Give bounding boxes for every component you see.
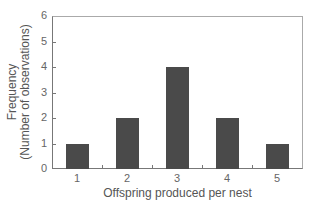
y-tick-label: 4 [35,60,47,72]
x-axis-label: Offspring produced per nest [52,186,303,200]
y-tick [52,42,56,43]
x-minor-tick [202,165,203,169]
x-tick-label: 1 [67,172,87,184]
bar-2 [116,118,139,169]
y-tick [52,144,56,145]
y-tick-label: 1 [35,137,47,149]
x-tick-label: 2 [117,172,137,184]
y-tick-label: 3 [35,86,47,98]
bar-4 [216,118,239,169]
x-tick-label: 3 [167,172,187,184]
y-axis-label: Frequency (Number of observations) [4,12,34,172]
x-tick-label: 5 [267,172,287,184]
y-tick-label: 2 [35,111,47,123]
y-tick [52,67,56,68]
bar-5 [266,144,289,170]
bar-1 [66,144,89,170]
y-tick [52,118,56,119]
y-tick-label: 0 [35,162,47,174]
x-tick-label: 4 [217,172,237,184]
x-minor-tick [102,165,103,169]
x-minor-tick [152,165,153,169]
y-axis-label-line2: (Number of observations) [19,12,32,172]
bar-3 [166,67,189,169]
y-tick-label: 5 [35,35,47,47]
y-tick-label: 6 [35,9,47,21]
x-minor-tick [252,165,253,169]
y-tick [52,93,56,94]
